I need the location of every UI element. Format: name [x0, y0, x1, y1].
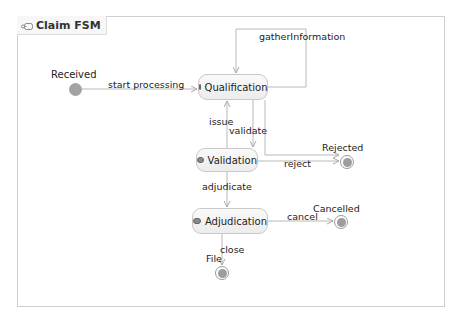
state-icon — [199, 84, 201, 90]
state-icon — [197, 157, 204, 163]
state-label: Validation — [208, 155, 257, 166]
transition-label: reject — [284, 158, 311, 169]
transition-label: start processing — [108, 79, 184, 90]
transition-label: close — [220, 244, 244, 255]
state-icon — [193, 218, 201, 224]
state-qualification[interactable]: Qualification — [198, 74, 268, 100]
state-label: Qualification — [205, 82, 268, 93]
state-label: Adjudication — [205, 216, 267, 227]
transition-label: validate — [229, 125, 267, 136]
final-node-rejected[interactable] — [340, 155, 354, 169]
state-adjudication[interactable]: Adjudication — [192, 208, 268, 234]
final-node-file[interactable] — [215, 266, 229, 280]
initial-node-received[interactable] — [69, 83, 82, 96]
final-node-label: Rejected — [322, 142, 363, 153]
state-validation[interactable]: Validation — [196, 148, 258, 172]
initial-node-label: Received — [51, 69, 97, 80]
transition-label: cancel — [287, 211, 318, 222]
final-node-cancelled[interactable] — [334, 215, 348, 229]
transition-label: gatherInformation — [259, 31, 345, 42]
transition-label: adjudicate — [202, 181, 252, 192]
final-node-label: Cancelled — [313, 203, 360, 214]
